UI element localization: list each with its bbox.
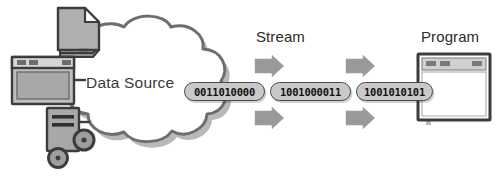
window-button-2-icon: [440, 61, 450, 66]
stream-packet-1: 1001000011: [270, 82, 351, 101]
arrow-right-icon-top-left: [254, 53, 285, 79]
arrow-right-icon-bottom-left: [254, 105, 285, 131]
data-source-label: Data Source: [86, 74, 174, 92]
window-button-1-icon: [426, 61, 436, 66]
arrow-right-icon-top-right: [345, 53, 376, 79]
arrow-right-icon-bottom-right: [345, 105, 376, 131]
window-button-3-icon: [472, 61, 482, 66]
gear-small-icon: [47, 147, 69, 169]
program-label: Program: [421, 28, 479, 45]
document-icon: [58, 8, 99, 57]
gear-large-icon: [73, 129, 96, 152]
stream-label: Stream: [256, 28, 305, 45]
stream-packet-0: 0011010000: [184, 82, 265, 101]
monitor-window-icon: [12, 57, 74, 104]
stream-diagram: Stream Program Data Source 0011010000 10…: [0, 0, 501, 183]
stream-packet-2: 1001010101: [356, 82, 433, 101]
